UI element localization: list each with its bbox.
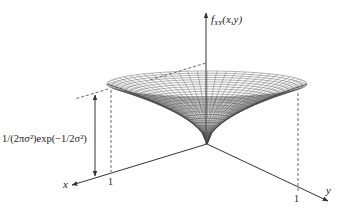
x-tick-label: 1 — [108, 176, 113, 187]
y-tick-label: 1 — [294, 193, 299, 204]
surface-diagram: fXY(x,y) 1/(2πσ²)exp(−1/2σ²) x y 1 1 — [0, 0, 341, 215]
y-axis — [207, 144, 328, 201]
height-dashed-line — [75, 89, 108, 99]
x-axis — [72, 144, 207, 185]
height-label: 1/(2πσ²)exp(−1/2σ²) — [2, 133, 87, 145]
z-axis-label: fXY(x,y) — [211, 13, 242, 27]
x-axis-label: x — [62, 178, 68, 190]
y-axis-label: y — [325, 184, 331, 196]
funnel-surface-mesh — [107, 71, 307, 144]
